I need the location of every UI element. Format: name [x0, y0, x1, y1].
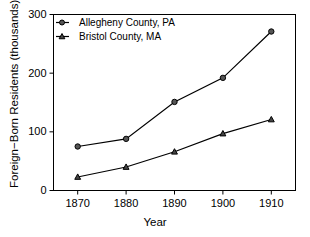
data-point-marker-circle — [269, 29, 274, 34]
legend-item-allegheny-county-pa: Allegheny County, PA — [79, 18, 175, 28]
y-tick-label: 100 — [28, 126, 46, 137]
y-tick-label: 200 — [28, 68, 46, 79]
data-point-marker-triangle — [268, 116, 274, 121]
data-point-marker-circle — [220, 75, 225, 80]
y-axis-ticks — [50, 15, 54, 191]
legend-glyphs — [56, 20, 69, 39]
legend-marker-circle — [60, 20, 65, 25]
x-tick-label: 1870 — [58, 198, 98, 209]
legend-item-bristol-county-ma: Bristol County, MA — [79, 32, 161, 42]
data-point-marker-circle — [172, 99, 177, 104]
series-line-0 — [78, 32, 272, 147]
data-point-marker-circle — [123, 136, 128, 141]
chart-figure: 0 100 200 300 1870 1880 1890 1900 1910 Y… — [0, 0, 310, 237]
x-tick-label: 1910 — [251, 198, 291, 209]
series-markers — [75, 29, 274, 180]
x-tick-label: 1890 — [155, 198, 195, 209]
x-tick-label: 1880 — [106, 198, 146, 209]
x-tick-label: 1900 — [203, 198, 243, 209]
y-tick-label: 0 — [40, 185, 46, 196]
y-tick-label: 300 — [28, 9, 46, 20]
x-axis-ticks — [78, 191, 272, 195]
y-axis-title: Foreign−Born Residents (thousands) — [9, 0, 21, 188]
x-axis-title: Year — [0, 217, 310, 229]
data-point-marker-circle — [75, 144, 80, 149]
